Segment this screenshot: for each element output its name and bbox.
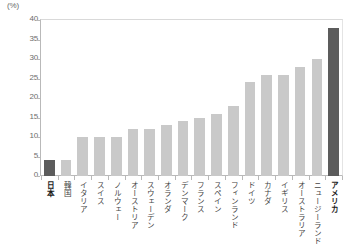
y-axis-tick-label: 40 [14,14,38,23]
x-axis-label-slot: 日本 [41,181,58,251]
x-axis-label-slot: デンマーク [175,181,192,251]
x-axis-tick [275,176,292,180]
x-axis-label-slot: アメリカ [325,181,342,251]
y-axis-tick-mark [36,59,40,60]
x-axis-label: オーストリア [129,181,137,229]
y-axis-tick-mark [36,98,40,99]
bar [94,137,105,176]
x-axis-tick [191,176,208,180]
x-axis-label: ノルウェー [112,181,120,221]
x-axis-tick [325,176,342,180]
y-axis-tick-label: 35 [14,34,38,43]
x-axis-tick-mark [91,176,92,180]
x-axis-tick-mark [41,176,42,180]
bar-slot [325,20,342,176]
x-axis-label: スペイン [212,181,220,213]
bar [144,129,155,176]
x-axis-label: 韓国 [62,181,70,197]
x-axis-label-slot: フィンランド [225,181,242,251]
y-axis-tick-mark [36,40,40,41]
x-axis-label: オランダ [162,181,170,213]
x-axis-label-slot: イタリア [74,181,91,251]
y-axis-tick-mark [36,137,40,138]
x-axis-label-slot: 韓国 [58,181,75,251]
y-axis-tick-mark [36,118,40,119]
x-axis-label-slot: ニュージーランド [309,181,326,251]
x-axis-tick-mark [325,176,326,180]
bar-slot [74,20,91,176]
bar-slot [258,20,275,176]
bar-slot [191,20,208,176]
x-axis-label: ドイツ [246,181,254,205]
y-axis-tick-label: 10 [14,131,38,140]
x-axis-tick [225,176,242,180]
x-axis-tick-mark [74,176,75,180]
bar-slot [208,20,225,176]
bar-slot [242,20,259,176]
x-axis-tick [91,176,108,180]
x-axis-labels: 日本韓国イタリアスイスノルウェーオーストリアスウェーデンオランダデンマークフラン… [41,181,342,251]
y-axis-tick-mark [36,157,40,158]
x-axis-tick [309,176,326,180]
x-axis-tick [125,176,142,180]
x-axis-ticks [41,176,342,180]
bar [228,106,239,176]
bar [278,75,289,176]
y-axis-tick-mark [36,79,40,80]
x-axis-tick-mark [292,176,293,180]
bar-slot [125,20,142,176]
bar [128,129,139,176]
x-axis-tick-mark [158,176,159,180]
x-axis-tick-mark [125,176,126,180]
bar-slot [275,20,292,176]
x-axis-label: イタリア [79,181,87,213]
x-axis-label-slot: オーストリア [125,181,142,251]
bar [161,125,172,176]
x-axis-tick-mark [225,176,226,180]
bar [261,75,272,176]
x-axis-tick [41,176,58,180]
x-axis-label-slot: カナダ [258,181,275,251]
bar-slot [158,20,175,176]
x-axis-label: オーストラリア [296,181,304,237]
bar [194,118,205,177]
x-axis-label-slot: オーストラリア [292,181,309,251]
x-axis-label: フランス [196,181,204,213]
x-axis-tick-mark [208,176,209,180]
bar-slot [292,20,309,176]
x-axis-tick [242,176,259,180]
x-axis-label: ニュージーランド [313,181,321,245]
y-axis-tick-label: 20 [14,92,38,101]
x-axis-label-slot: イギリス [275,181,292,251]
x-axis-tick [175,176,192,180]
x-axis-tick-mark [309,176,310,180]
x-axis-label-slot: スペイン [208,181,225,251]
y-axis-tick-label: 30 [14,53,38,62]
bar-slot [175,20,192,176]
x-axis-tick-mark [191,176,192,180]
x-axis-label-slot: ドイツ [242,181,259,251]
x-axis-label: 日本 [45,181,53,197]
y-axis-tick-label: 0 [14,170,38,179]
bar-chart: (%) 0510152025303540 日本韓国イタリアスイスノルウェーオース… [0,0,349,252]
bar [44,160,55,176]
x-axis-label-slot: オランダ [158,181,175,251]
bar [211,114,222,176]
x-axis-tick-mark [141,176,142,180]
x-axis-tick [58,176,75,180]
x-axis-tick-mark [275,176,276,180]
x-axis-tick [292,176,309,180]
bar-slot [309,20,326,176]
x-axis-tick-mark [108,176,109,180]
x-axis-label-slot: フランス [191,181,208,251]
bar [328,28,339,176]
x-axis-tick-mark [258,176,259,180]
bar [312,59,323,176]
x-axis-tick [74,176,91,180]
x-axis-label: スイス [95,181,103,205]
x-axis-tick [141,176,158,180]
bar-slot [58,20,75,176]
y-axis-tick-label: 25 [14,73,38,82]
x-axis-label: アメリカ [329,181,337,213]
x-axis-tick-mark [242,176,243,180]
